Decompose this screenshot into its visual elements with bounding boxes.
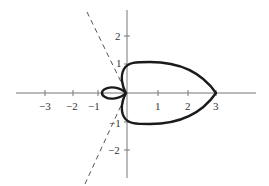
y-tick-label: −2 <box>108 144 120 156</box>
y-tick-label: 1 <box>116 57 122 69</box>
y-tick-label: −1 <box>109 117 121 129</box>
polar-plot: −3 −2 −1 1 2 3 2 1 −1 −2 <box>0 0 269 186</box>
x-tick-label: 1 <box>155 100 161 112</box>
x-tick-label: 2 <box>185 100 191 112</box>
x-tick-label: −1 <box>88 100 100 112</box>
x-tick-label: −3 <box>39 100 51 112</box>
x-tick-label: 3 <box>213 100 219 112</box>
x-tick-label: −2 <box>66 100 78 112</box>
y-tick-label: 2 <box>115 30 121 42</box>
tangent-line-upper <box>87 12 124 88</box>
